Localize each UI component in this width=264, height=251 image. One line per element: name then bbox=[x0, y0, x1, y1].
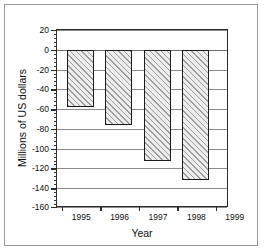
xtick-label-1998: 1998 bbox=[187, 213, 206, 222]
ytick-minor bbox=[54, 133, 57, 134]
ytick-major-minus60 bbox=[51, 109, 57, 110]
ytick-minor bbox=[54, 153, 57, 154]
ytick-minor bbox=[54, 85, 57, 86]
xtick-label-1997: 1997 bbox=[149, 213, 168, 222]
ytick-minor bbox=[54, 81, 57, 82]
bar-1996[interactable] bbox=[105, 50, 132, 125]
bar-1998[interactable] bbox=[182, 50, 209, 181]
ytick-minor bbox=[54, 38, 57, 39]
ytick-label-minus20: -20 bbox=[37, 65, 49, 74]
ytick-label-minus120: -120 bbox=[32, 164, 49, 173]
ytick-minor bbox=[54, 77, 57, 78]
ytick-major-20 bbox=[51, 30, 57, 31]
ytick-minor bbox=[54, 74, 57, 75]
ytick-minor bbox=[54, 54, 57, 55]
plot-area: 20 0 -20 -40 -60 -80 -100 -120 -140 -160… bbox=[56, 29, 228, 207]
ytick-minor bbox=[54, 196, 57, 197]
bar-1995[interactable] bbox=[67, 50, 94, 107]
ytick-major-minus160 bbox=[51, 207, 57, 208]
ytick-label-minus60: -60 bbox=[37, 105, 49, 114]
ytick-major-minus20 bbox=[51, 70, 57, 71]
xtick bbox=[100, 206, 101, 211]
xtick bbox=[139, 206, 140, 211]
bar-1997[interactable] bbox=[144, 50, 171, 161]
ytick-minor bbox=[54, 161, 57, 162]
ytick-minor bbox=[54, 192, 57, 193]
xtick bbox=[177, 206, 178, 211]
xtick bbox=[216, 206, 217, 211]
ytick-minor bbox=[54, 93, 57, 94]
ytick-label-0: 0 bbox=[44, 46, 49, 55]
ytick-minor bbox=[54, 164, 57, 165]
ytick-minor bbox=[54, 125, 57, 126]
ytick-minor bbox=[54, 58, 57, 59]
ytick-minor bbox=[54, 172, 57, 173]
ytick-minor bbox=[54, 46, 57, 47]
xtick-label-1999: 1999 bbox=[225, 213, 244, 222]
ytick-label-minus160: -160 bbox=[32, 202, 49, 211]
ytick-minor bbox=[54, 180, 57, 181]
ytick-minor bbox=[54, 117, 57, 118]
ytick-major-minus140 bbox=[51, 188, 57, 189]
gridline-minus160 bbox=[57, 207, 227, 208]
ytick-label-minus40: -40 bbox=[37, 85, 49, 94]
ytick-major-minus40 bbox=[51, 89, 57, 90]
xtick bbox=[62, 206, 63, 211]
ytick-minor bbox=[54, 145, 57, 146]
figure-frame: 20 0 -20 -40 -60 -80 -100 -120 -140 -160… bbox=[4, 4, 258, 246]
ytick-minor bbox=[54, 176, 57, 177]
ytick-label-minus140: -140 bbox=[32, 184, 49, 193]
ytick-minor bbox=[54, 101, 57, 102]
ytick-label-20: 20 bbox=[40, 26, 49, 35]
ytick-minor bbox=[54, 200, 57, 201]
ytick-minor bbox=[54, 204, 57, 205]
y-axis-title: Millions of US dollars bbox=[17, 29, 29, 207]
xtick-label-1995: 1995 bbox=[72, 213, 91, 222]
ytick-minor bbox=[54, 157, 57, 158]
ytick-minor bbox=[54, 34, 57, 35]
ytick-minor bbox=[54, 105, 57, 106]
ytick-major-minus80 bbox=[51, 129, 57, 130]
ytick-major-minus100 bbox=[51, 149, 57, 150]
ytick-minor bbox=[54, 137, 57, 138]
ytick-major-minus120 bbox=[51, 168, 57, 169]
ytick-minor bbox=[54, 141, 57, 142]
ytick-minor bbox=[54, 184, 57, 185]
ytick-minor bbox=[54, 42, 57, 43]
ytick-minor bbox=[54, 66, 57, 67]
ytick-minor bbox=[54, 62, 57, 63]
ytick-label-minus100: -100 bbox=[32, 144, 49, 153]
ytick-minor bbox=[54, 97, 57, 98]
bars-layer bbox=[57, 30, 227, 206]
ytick-major-0 bbox=[51, 50, 57, 51]
x-axis-title: Year bbox=[56, 228, 228, 239]
xtick-label-1996: 1996 bbox=[110, 213, 129, 222]
ytick-minor bbox=[54, 113, 57, 114]
ytick-label-minus80: -80 bbox=[37, 125, 49, 134]
ytick-minor bbox=[54, 121, 57, 122]
